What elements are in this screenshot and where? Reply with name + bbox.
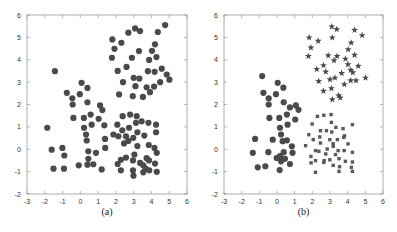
circle-marker (70, 115, 76, 121)
circle-marker (154, 150, 160, 156)
circle-marker (84, 99, 90, 105)
circle-marker (141, 133, 147, 139)
circle-marker (102, 145, 108, 151)
circle-marker (111, 46, 117, 52)
circle-marker (130, 173, 136, 179)
circle-marker (61, 152, 67, 158)
circle-marker (266, 115, 272, 121)
square-marker (341, 127, 344, 130)
circle-marker (61, 166, 67, 172)
x-tick-label: 4 (346, 198, 350, 205)
panel-b: -3-2-10123456-2-10123456(b) (212, 12, 385, 219)
circle-marker (146, 57, 152, 63)
square-marker (334, 153, 337, 156)
y-tick-label: 2 (214, 101, 218, 108)
square-marker (351, 151, 354, 154)
circle-marker (118, 40, 124, 46)
x-tick-label: 1 (293, 198, 297, 205)
y-tick-label: -1 (212, 168, 218, 175)
square-marker (351, 160, 354, 163)
square-marker (309, 155, 312, 158)
circle-marker (125, 30, 131, 36)
square-marker (351, 170, 354, 173)
circle-marker (153, 129, 159, 135)
square-marker (334, 126, 337, 129)
circle-marker (134, 143, 140, 149)
square-marker (342, 149, 345, 152)
circle-marker (83, 131, 89, 137)
circle-marker (81, 115, 87, 121)
circle-marker (126, 125, 132, 131)
x-tick-label: 2 (114, 198, 118, 205)
x-tick-label: 5 (167, 198, 171, 205)
circle-marker (78, 80, 84, 86)
y-tick-label: 6 (214, 12, 218, 19)
square-marker (331, 164, 334, 167)
star-marker (328, 85, 335, 92)
circle-marker (132, 83, 138, 89)
series-cluster-2 (250, 73, 302, 173)
y-tick-label: -2 (15, 191, 21, 198)
circle-marker (121, 140, 127, 146)
circle-marker (70, 101, 76, 107)
circle-marker (96, 116, 102, 122)
circle-marker (131, 75, 137, 81)
y-tick-label: -1 (15, 168, 21, 175)
circle-marker (147, 89, 153, 95)
square-marker (330, 121, 333, 124)
circle-marker (277, 153, 283, 159)
circle-marker (145, 120, 151, 126)
circle-marker (259, 73, 265, 79)
circle-marker (131, 152, 137, 158)
panel-caption: (a) (101, 206, 112, 218)
circle-marker (289, 143, 295, 149)
x-tick-label: -3 (221, 198, 227, 205)
circle-marker (287, 104, 293, 110)
circle-marker (149, 48, 155, 54)
circle-marker (118, 167, 124, 173)
circle-marker (49, 147, 55, 153)
circle-marker (159, 66, 165, 72)
circle-marker (146, 157, 152, 163)
star-marker (359, 32, 366, 39)
y-tick-label: 0 (214, 146, 218, 153)
circle-marker (120, 79, 126, 85)
x-tick-label: 4 (149, 198, 153, 205)
circle-marker (59, 145, 65, 151)
circle-marker (52, 68, 58, 74)
circle-marker (88, 111, 94, 117)
y-tick-label: 3 (214, 79, 218, 86)
star-marker (313, 66, 320, 73)
circle-marker (155, 29, 161, 35)
circle-marker (162, 22, 168, 28)
circle-marker (130, 157, 136, 163)
circle-marker (129, 55, 135, 61)
star-marker (362, 74, 369, 81)
panel-a: -3-2-10123456-2-10123456(a) (15, 12, 189, 219)
circle-marker (266, 101, 272, 107)
x-tick-label: -1 (256, 198, 262, 205)
y-tick-label: 3 (17, 79, 21, 86)
star-marker (351, 26, 358, 33)
star-marker (322, 68, 329, 75)
square-marker (304, 144, 307, 147)
circle-marker (130, 93, 136, 99)
circle-marker (119, 127, 125, 133)
circle-marker (146, 167, 152, 173)
circle-marker (252, 136, 258, 142)
star-marker (329, 34, 336, 41)
panel-caption: (b) (298, 206, 310, 218)
circle-marker (281, 99, 287, 105)
circle-marker (285, 122, 291, 128)
circle-marker (292, 116, 298, 122)
star-marker (333, 26, 340, 33)
star-marker (338, 70, 345, 77)
circle-marker (102, 136, 108, 142)
figure: -3-2-10123456-2-10123456(a)-3-2-10123456… (0, 0, 397, 232)
square-marker (314, 171, 317, 174)
circle-marker (136, 48, 142, 54)
square-marker (319, 141, 322, 144)
circle-marker (270, 137, 276, 143)
circle-marker (278, 131, 284, 137)
x-tick-label: 2 (310, 198, 314, 205)
